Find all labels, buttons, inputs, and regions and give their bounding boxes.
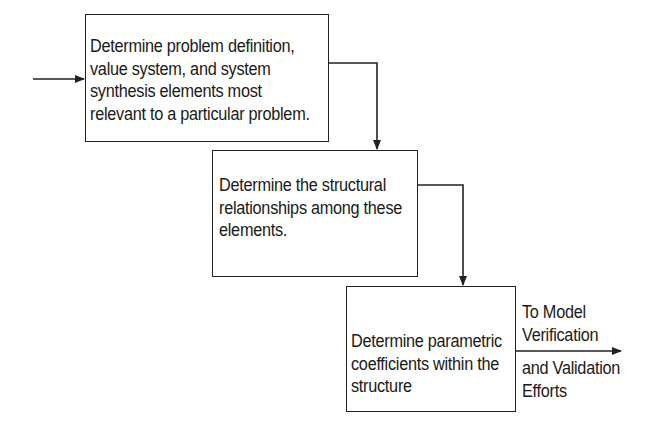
step-1-line-3: synthesis elements most — [90, 80, 310, 103]
output-label-line-4: Efforts — [522, 380, 620, 403]
step-1-line-1: Determine problem definition, — [90, 35, 310, 58]
output-label: To Model Verification and Validation Eff… — [522, 301, 620, 403]
step-2-line-3: elements. — [219, 219, 402, 242]
connector-step1-step2 — [328, 63, 377, 149]
step-3-line-3: structure — [351, 375, 502, 398]
output-label-line-1: To Model — [522, 301, 620, 324]
output-label-line-3: and Validation — [522, 357, 620, 380]
step-3-line-1: Determine parametric — [351, 330, 502, 353]
step-1-line-2: value system, and system — [90, 58, 310, 81]
step-2-line-1: Determine the structural — [219, 174, 402, 197]
output-label-line-2: Verification — [522, 324, 620, 347]
step-2-box: Determine the structural relationships a… — [212, 150, 418, 277]
step-1-box: Determine problem definition, value syst… — [85, 14, 329, 142]
step-3-line-2: coefficients within the — [351, 353, 502, 376]
step-1-line-4: relevant to a particular problem. — [90, 103, 310, 126]
step-3-box: Determine parametric coefficients within… — [346, 286, 516, 412]
connector-step2-step3 — [417, 185, 463, 285]
step-2-line-2: relationships among these — [219, 197, 402, 220]
